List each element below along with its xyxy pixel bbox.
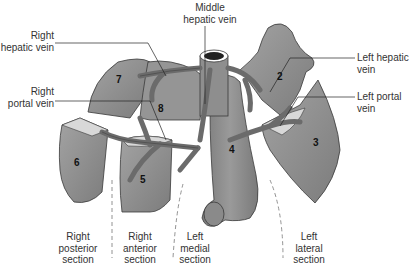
segment-7-label: 7 <box>116 74 122 85</box>
label-left-portal-vein: Left portal vein <box>357 91 401 114</box>
segment-4-label: 4 <box>229 144 235 155</box>
label-right-anterior-section: Right anterior section <box>118 231 162 265</box>
label-right-posterior-section: Right posterior section <box>56 231 100 265</box>
segment-5 <box>120 136 172 212</box>
segment-3-label: 3 <box>313 137 319 148</box>
label-right-hepatic-vein: Right hepatic vein <box>0 30 54 53</box>
divider-medial-lateral <box>270 180 283 258</box>
label-left-medial-section: Left medial section <box>175 231 215 265</box>
segment-5-label: 5 <box>140 174 146 185</box>
label-left-lateral-section: Left lateral section <box>288 231 330 265</box>
segment-6-label: 6 <box>74 157 80 168</box>
label-left-hepatic-vein: Left hepatic vein <box>357 52 409 75</box>
label-middle-hepatic-vein: Middle hepatic vein <box>170 2 250 25</box>
segment-2-label: 2 <box>277 71 283 82</box>
segment-8-label: 8 <box>158 103 164 114</box>
label-right-portal-vein: Right portal vein <box>0 86 54 109</box>
